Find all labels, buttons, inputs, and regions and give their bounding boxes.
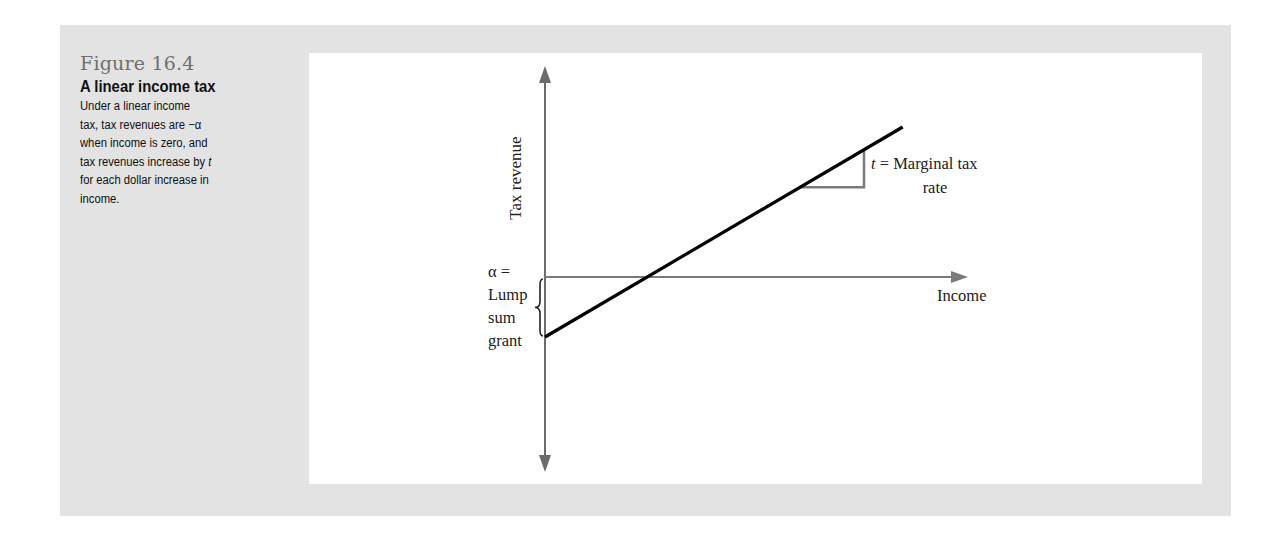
alpha-label-line: α = xyxy=(488,262,510,281)
alpha-label-line: Lump xyxy=(488,285,527,304)
x-axis-arrow-right-icon xyxy=(951,271,968,283)
slope-label-line2: rate xyxy=(923,178,948,197)
alpha-label-line: sum xyxy=(488,308,516,327)
alpha-label-line: grant xyxy=(488,331,522,350)
x-axis-label: Income xyxy=(937,286,986,305)
y-axis-arrow-up-icon xyxy=(539,66,551,83)
y-axis-arrow-down-icon xyxy=(539,455,551,472)
lump-sum-brace xyxy=(535,279,543,336)
slope-label: t = Marginal tax xyxy=(871,154,978,173)
tax-revenue-line xyxy=(545,127,903,337)
slope-label-text: = Marginal tax xyxy=(876,154,979,173)
y-axis-label: Tax revenue xyxy=(506,136,525,219)
chart-svg: Tax revenue Income α = Lump sum grant t … xyxy=(0,0,1284,538)
